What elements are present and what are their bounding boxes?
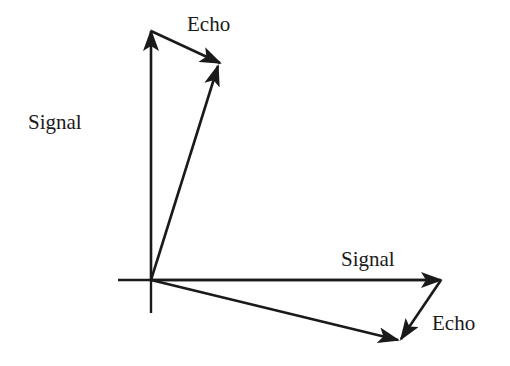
resultant-top-vector (151, 66, 218, 280)
label-echo-bottom: Echo (432, 311, 475, 335)
label-signal-left: Signal (28, 110, 82, 134)
label-echo-top: Echo (187, 12, 230, 36)
vector-diagram: Echo Signal Signal Echo (0, 0, 510, 366)
resultant-bottom-vector (151, 280, 398, 340)
label-signal-right: Signal (341, 247, 395, 271)
